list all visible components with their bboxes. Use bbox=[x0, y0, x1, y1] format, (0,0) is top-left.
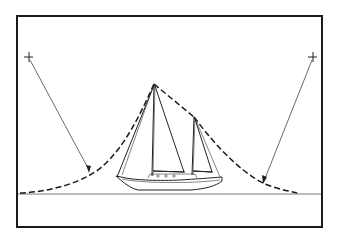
left-guide-line bbox=[30, 60, 89, 170]
hull bbox=[116, 176, 222, 190]
right-guide-line bbox=[264, 60, 312, 181]
schooner-diagram bbox=[0, 0, 338, 242]
left-dashed-curve bbox=[20, 84, 154, 193]
left-sighting-mark-icon bbox=[24, 52, 33, 62]
left-arrow-icon bbox=[86, 165, 91, 173]
forestay bbox=[117, 85, 154, 177]
right-sighting-mark-icon bbox=[308, 52, 317, 62]
schooner-icon bbox=[116, 84, 222, 190]
main-sail bbox=[153, 86, 184, 172]
